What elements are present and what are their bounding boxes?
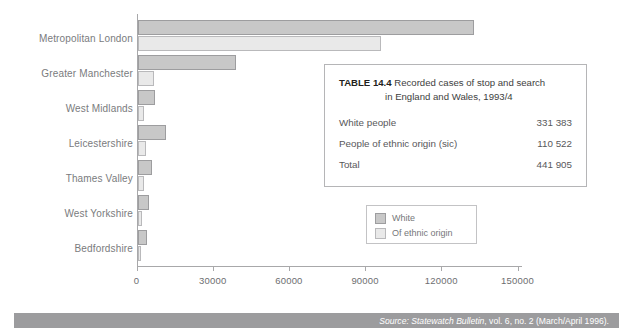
source-title: Statewatch Bulletin — [411, 316, 484, 326]
legend-item-white: White — [375, 211, 476, 225]
bar-ethnic-thames-valley — [138, 176, 144, 191]
table-row: White people 331 383 — [339, 112, 572, 133]
bar-ethnic-leicestershire — [138, 141, 147, 156]
category-label-bedfordshire: Bedfordshire — [75, 243, 134, 254]
table-title-line2: in England and Wales, 1993/4 — [339, 90, 572, 104]
table-title-line1: Recorded cases of stop and search — [394, 77, 545, 88]
figure-root: Metropolitan London Greater Manchester W… — [0, 0, 619, 333]
legend-item-ethnic: Of ethnic origin — [375, 226, 476, 240]
legend-swatch-icon-ethnic — [375, 228, 386, 239]
category-label-metropolitan-london: Metropolitan London — [39, 33, 133, 44]
bar-white-leicestershire — [138, 125, 166, 140]
source-prefix: Source: — [379, 316, 409, 326]
legend-swatch-icon-white — [375, 213, 386, 224]
bar-ethnic-greater-manchester — [138, 71, 155, 86]
table-cell-value: 441 905 — [520, 154, 572, 175]
source-note: Source: Statewatch Bulletin, vol. 6, no.… — [379, 314, 609, 328]
category-label-greater-manchester: Greater Manchester — [41, 68, 133, 79]
x-tick-150000 — [518, 266, 519, 271]
table-cell-value: 110 522 — [520, 133, 572, 154]
x-tick-label-0: 0 — [134, 275, 139, 286]
bar-ethnic-west-midlands — [138, 106, 144, 121]
table-cell-label: White people — [339, 112, 396, 133]
bar-white-thames-valley — [138, 160, 153, 175]
bar-ethnic-metropolitan-london — [138, 36, 382, 51]
category-label-leicestershire: Leicestershire — [69, 138, 133, 149]
table-row: People of ethnic origin (sic) 110 522 — [339, 133, 572, 154]
x-tick-label-90000: 90000 — [351, 275, 378, 286]
category-label-thames-valley: Thames Valley — [66, 173, 133, 184]
table-title: TABLE 14.4 Recorded cases of stop and se… — [339, 76, 572, 103]
bar-white-west-yorkshire — [138, 195, 150, 210]
x-tick-label-120000: 120000 — [425, 275, 458, 286]
table-cell-value: 331 383 — [520, 112, 572, 133]
y-axis-line — [137, 14, 138, 266]
x-axis-line — [137, 266, 522, 267]
table-cell-label: People of ethnic origin (sic) — [339, 133, 457, 154]
source-rest: , vol. 6, no. 2 (March/April 1996). — [484, 316, 609, 326]
bar-white-metropolitan-london — [138, 20, 475, 35]
bar-ethnic-bedfordshire — [138, 246, 142, 261]
bar-white-west-midlands — [138, 90, 156, 105]
table-number: TABLE 14.4 — [339, 77, 392, 88]
x-tick-label-30000: 30000 — [199, 275, 226, 286]
x-tick-60000 — [289, 266, 290, 271]
x-tick-0 — [137, 266, 138, 271]
table-cell-label: Total — [339, 154, 360, 175]
x-tick-label-150000: 150000 — [501, 275, 534, 286]
table-row: Total 441 905 — [339, 154, 572, 175]
x-tick-30000 — [213, 266, 214, 271]
legend-label-white: White — [392, 213, 415, 223]
bar-ethnic-west-yorkshire — [138, 211, 143, 226]
x-tick-label-60000: 60000 — [275, 275, 302, 286]
category-label-west-midlands: West Midlands — [66, 103, 133, 114]
bar-white-greater-manchester — [138, 55, 237, 70]
bar-white-bedfordshire — [138, 230, 147, 245]
x-tick-120000 — [441, 266, 442, 271]
category-label-west-yorkshire: West Yorkshire — [64, 208, 133, 219]
x-tick-90000 — [365, 266, 366, 271]
chart-legend: White Of ethnic origin — [366, 205, 477, 244]
data-table-box: TABLE 14.4 Recorded cases of stop and se… — [324, 64, 587, 187]
legend-label-ethnic: Of ethnic origin — [392, 228, 453, 238]
